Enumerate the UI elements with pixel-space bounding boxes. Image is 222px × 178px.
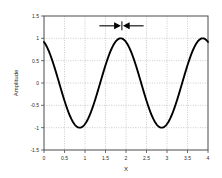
x-tick-label: 1.5 (102, 155, 109, 161)
y-tick-label: -1.5 (30, 147, 39, 153)
x-tick-label: 4 (207, 155, 210, 161)
y-tick-label: 1 (36, 35, 39, 41)
y-tick-label: 1.5 (32, 13, 39, 19)
chart-figure: 1.5 1 0.5 0 -0.5 -1 -1.5 0 0.5 1 1.5 2 2… (0, 0, 222, 178)
x-tick-label: 0 (43, 155, 46, 161)
y-tick-label: -0.5 (30, 102, 39, 108)
y-axis-title: Amplitude (13, 69, 19, 96)
y-tick-label: 0.5 (32, 58, 39, 64)
x-tick-label: 0.5 (61, 155, 68, 161)
x-tick-label: 2.5 (143, 155, 150, 161)
y-tick-label: -1 (35, 125, 40, 131)
plot-canvas: 1.5 1 0.5 0 -0.5 -1 -1.5 0 0.5 1 1.5 2 2… (0, 0, 222, 178)
y-tick-label: 0 (36, 80, 39, 86)
x-tick-label: 3.5 (184, 155, 191, 161)
x-axis-title: X (124, 166, 128, 172)
grid-lines (44, 16, 208, 150)
x-tick-label: 2 (125, 155, 128, 161)
interval-marker-annotation (99, 21, 143, 30)
x-tick-label: 3 (166, 155, 169, 161)
x-tick-label: 1 (84, 155, 87, 161)
